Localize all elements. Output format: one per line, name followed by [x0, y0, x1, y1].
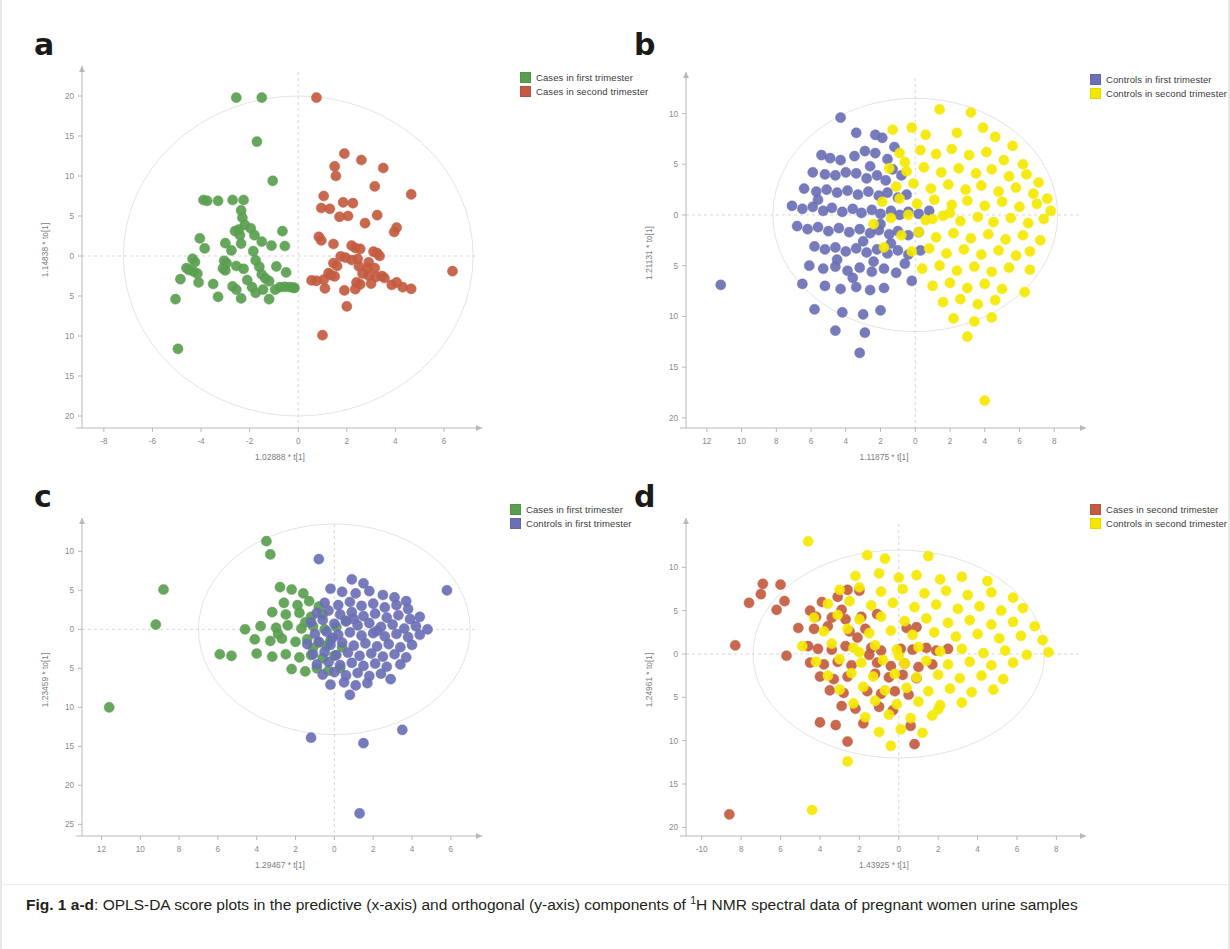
legend-swatch-controls-first-trimester — [1090, 74, 1101, 85]
svg-text:1.29467 * t[1]: 1.29467 * t[1] — [255, 860, 305, 870]
svg-text:5: 5 — [69, 664, 74, 673]
svg-text:0: 0 — [69, 252, 74, 261]
svg-text:6: 6 — [809, 437, 814, 446]
svg-text:2: 2 — [878, 437, 883, 446]
figure-root: a -8-6-4-202462015105051015201.02888 * t… — [0, 0, 1230, 949]
panel-c-letter: c — [34, 482, 52, 512]
svg-text:5: 5 — [673, 160, 678, 169]
svg-text:20: 20 — [669, 414, 679, 423]
svg-text:20: 20 — [65, 412, 75, 421]
legend-swatch-cases-first-trimester — [520, 72, 531, 83]
svg-text:4: 4 — [254, 845, 259, 854]
panel-c: c 12108642024610505101520251.29467 * t[1… — [24, 482, 614, 882]
legend-label: Controls in second trimester — [1106, 518, 1227, 529]
svg-text:10: 10 — [65, 172, 75, 181]
caption-text-part-2: H NMR spectral data of pregnant women ur… — [696, 896, 1078, 913]
svg-text:8: 8 — [1054, 845, 1059, 854]
svg-text:10: 10 — [669, 563, 679, 572]
svg-text:6: 6 — [1017, 437, 1022, 446]
svg-text:15: 15 — [669, 780, 679, 789]
legend-label: Cases in first trimester — [536, 72, 633, 83]
svg-text:5: 5 — [673, 693, 678, 702]
svg-text:20: 20 — [65, 781, 75, 790]
svg-text:-2: -2 — [246, 437, 254, 446]
panel-d: d -10864202468105051015201.43925 * t[1]1… — [628, 482, 1228, 882]
svg-text:1.11875 * t[1]: 1.11875 * t[1] — [859, 452, 908, 462]
legend-label: Controls in first trimester — [526, 518, 632, 529]
svg-text:8: 8 — [774, 437, 779, 446]
legend-item: Controls in first trimester — [1090, 74, 1227, 85]
caption-divider — [0, 884, 1230, 885]
svg-text:-4: -4 — [197, 437, 205, 446]
svg-text:4: 4 — [393, 437, 398, 446]
svg-text:0: 0 — [332, 845, 337, 854]
svg-text:6: 6 — [1015, 845, 1020, 854]
svg-text:4: 4 — [975, 845, 980, 854]
svg-text:2: 2 — [345, 437, 350, 446]
svg-text:10: 10 — [737, 437, 747, 446]
svg-text:15: 15 — [669, 363, 679, 372]
svg-text:-10: -10 — [696, 845, 708, 854]
legend-item: Controls in first trimester — [510, 518, 632, 529]
svg-text:0: 0 — [913, 437, 918, 446]
svg-text:2: 2 — [936, 845, 941, 854]
svg-text:6: 6 — [442, 437, 447, 446]
legend-swatch-cases-second-trimester — [520, 86, 531, 97]
svg-text:5: 5 — [69, 212, 74, 221]
svg-text:6: 6 — [216, 845, 221, 854]
panel-b-legend: Controls in first trimester Controls in … — [1090, 74, 1227, 99]
legend-label: Cases in second trimester — [1106, 504, 1218, 515]
svg-text:10: 10 — [669, 737, 679, 746]
svg-text:5: 5 — [69, 586, 74, 595]
svg-text:5: 5 — [673, 607, 678, 616]
svg-text:10: 10 — [669, 110, 679, 119]
svg-text:10: 10 — [65, 332, 75, 341]
panel-a: a -8-6-4-202462015105051015201.02888 * t… — [24, 24, 614, 474]
svg-text:8: 8 — [1052, 437, 1057, 446]
panel-b-letter: b — [634, 30, 655, 60]
svg-text:4: 4 — [982, 437, 987, 446]
panel-b: b 1210864202468105051015201.11875 * t[1]… — [628, 24, 1228, 474]
svg-text:2: 2 — [948, 437, 953, 446]
svg-text:15: 15 — [65, 742, 75, 751]
panel-d-letter: d — [634, 482, 655, 512]
panel-c-legend: Cases in first trimester Controls in fir… — [510, 504, 632, 529]
svg-text:1.02888 * t[1]: 1.02888 * t[1] — [255, 452, 305, 462]
legend-swatch-controls-second-trimester — [1090, 518, 1101, 529]
legend-item: Cases in first trimester — [510, 504, 632, 515]
legend-label: Controls in second trimester — [1106, 88, 1227, 99]
legend-swatch-controls-second-trimester — [1090, 88, 1101, 99]
panel-a-letter: a — [34, 30, 54, 60]
svg-text:1.23459 * to[1]: 1.23459 * to[1] — [40, 653, 50, 707]
legend-swatch-cases-first-trimester — [510, 504, 521, 515]
page-edge-left — [0, 0, 2, 949]
legend-swatch-controls-first-trimester — [510, 518, 521, 529]
svg-text:2: 2 — [293, 845, 298, 854]
svg-text:1.43925 * t[1]: 1.43925 * t[1] — [859, 860, 909, 870]
panel-b-scatter-plot: 1210864202468105051015201.11875 * t[1]1.… — [628, 64, 1098, 474]
svg-text:5: 5 — [69, 292, 74, 301]
svg-text:0: 0 — [69, 625, 74, 634]
svg-text:-8: -8 — [100, 437, 108, 446]
svg-text:15: 15 — [65, 372, 75, 381]
legend-label: Controls in first trimester — [1106, 74, 1212, 85]
svg-text:10: 10 — [669, 312, 679, 321]
svg-text:8: 8 — [739, 845, 744, 854]
svg-text:4: 4 — [844, 437, 849, 446]
panel-c-scatter-plot: 12108642024610505101520251.29467 * t[1]1… — [24, 510, 494, 882]
legend-label: Cases in first trimester — [526, 504, 623, 515]
svg-text:0: 0 — [673, 650, 678, 659]
svg-text:4: 4 — [410, 845, 415, 854]
caption-figure-number: Fig. 1 a-d — [26, 896, 94, 913]
svg-text:0: 0 — [296, 437, 301, 446]
svg-text:10: 10 — [65, 547, 75, 556]
svg-text:5: 5 — [673, 262, 678, 271]
svg-text:6: 6 — [449, 845, 454, 854]
svg-text:-6: -6 — [149, 437, 157, 446]
svg-text:1.14838 * to[1]: 1.14838 * to[1] — [40, 223, 50, 277]
svg-text:20: 20 — [669, 823, 679, 832]
panel-d-scatter-plot: -10864202468105051015201.43925 * t[1]1.2… — [628, 510, 1098, 882]
legend-item: Controls in second trimester — [1090, 518, 1227, 529]
svg-text:12: 12 — [97, 845, 107, 854]
svg-text:0: 0 — [673, 211, 678, 220]
